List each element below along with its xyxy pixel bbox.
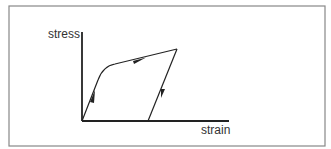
unloading-line [148,49,177,121]
y-axis-label: stress [48,28,80,40]
arrow-down-icon [161,89,165,98]
arrow-up-icon [90,90,95,103]
x-axis-label: strain [201,124,230,136]
stress-strain-diagram [0,0,331,149]
